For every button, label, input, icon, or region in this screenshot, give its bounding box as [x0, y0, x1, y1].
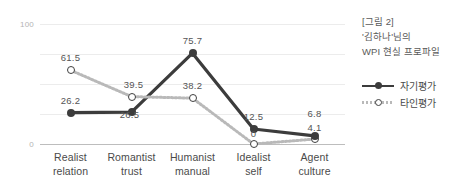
data-point	[128, 93, 136, 101]
data-label: 26.5	[120, 109, 139, 120]
chart-title-line: WPI 현실 프로파일	[362, 44, 468, 59]
x-axis-tick-label-line: culture	[272, 164, 358, 178]
legend-item-타인평가[interactable]: 타인평가	[362, 94, 468, 111]
y-axis-tick-label: 100	[20, 20, 34, 29]
legend-marker-icon	[362, 97, 394, 109]
data-point	[189, 49, 197, 57]
data-label: 0	[251, 128, 256, 139]
data-label: 26.2	[61, 95, 80, 106]
chart-root: 010026.226.575.712.56.861.539.538.204.1 …	[0, 0, 470, 195]
side-panel: [그림 2]'김하나'님의WPI 현실 프로파일 자기평가타인평가	[362, 14, 468, 111]
gridline	[40, 144, 345, 145]
legend-label: 자기평가	[400, 78, 436, 93]
data-point	[67, 109, 75, 117]
chart-title: [그림 2]'김하나'님의WPI 현실 프로파일	[362, 14, 468, 59]
data-point	[189, 94, 197, 102]
x-axis-tick-label: Agentculture	[272, 150, 358, 178]
legend-label: 타인평가	[400, 95, 436, 110]
y-axis-tick-label: 0	[29, 140, 34, 149]
legend-item-자기평가[interactable]: 자기평가	[362, 77, 468, 94]
x-axis-tick-label-line: Agent	[272, 150, 358, 164]
data-label: 75.7	[183, 35, 202, 46]
data-label: 6.8	[308, 108, 322, 119]
data-label: 12.5	[244, 111, 263, 122]
data-point	[250, 140, 258, 148]
data-label: 39.5	[124, 79, 143, 90]
data-label: 38.2	[183, 80, 202, 91]
x-axis-labels: RealistrelationRomantisttrustHumanistman…	[40, 150, 345, 195]
data-label: 61.5	[61, 52, 80, 63]
chart-title-line: '김하나'님의	[362, 29, 468, 44]
data-point	[67, 66, 75, 74]
chart-title-line: [그림 2]	[362, 14, 468, 29]
data-label: 4.1	[308, 122, 322, 133]
plot-canvas: 010026.226.575.712.56.861.539.538.204.1	[40, 24, 345, 144]
plot-area: 010026.226.575.712.56.861.539.538.204.1 …	[0, 0, 355, 195]
legend: 자기평가타인평가	[362, 77, 468, 111]
legend-marker-icon	[362, 80, 394, 92]
